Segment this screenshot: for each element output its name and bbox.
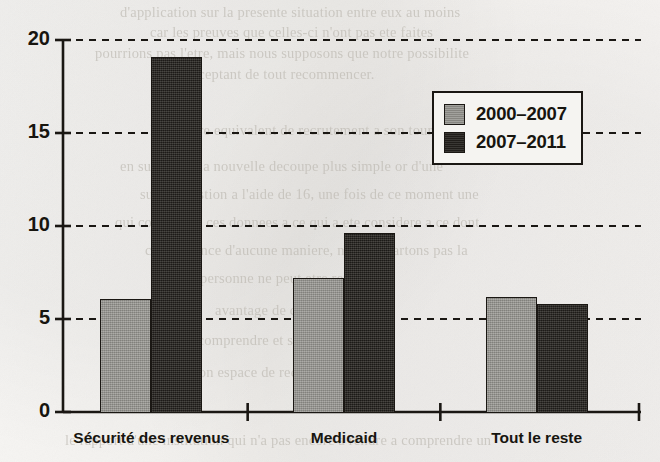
y-tick-label: 5: [10, 306, 50, 329]
legend-entry: 2000–2007: [444, 100, 569, 128]
legend-swatch-series-0: [444, 104, 465, 125]
y-tick-label: 15: [10, 120, 50, 143]
bar-2-series-0: [486, 297, 537, 413]
bar-1-series-1: [344, 233, 395, 413]
bar-1-series-0: [293, 278, 344, 413]
bar-2-series-1: [537, 304, 588, 413]
y-tick-label: 0: [10, 399, 50, 422]
x-category-label: Tout le reste: [417, 429, 657, 447]
legend-label-series-1: 2007–2011: [476, 131, 566, 153]
chart-legend: 2000–2007 2007–2011: [432, 91, 583, 165]
y-tick-label: 10: [10, 213, 50, 236]
bar-0-series-1: [151, 57, 202, 413]
y-tick-label: 20: [10, 27, 50, 50]
bar-0-series-0: [100, 299, 151, 413]
chart-page: d'application sur la presente situation …: [0, 0, 660, 462]
legend-label-series-0: 2000–2007: [476, 103, 567, 125]
legend-entry: 2007–2011: [444, 128, 569, 156]
legend-swatch-series-1: [444, 132, 465, 153]
